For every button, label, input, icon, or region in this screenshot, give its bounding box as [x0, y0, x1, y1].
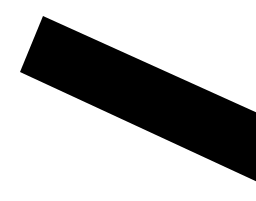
canvas: [0, 0, 256, 201]
